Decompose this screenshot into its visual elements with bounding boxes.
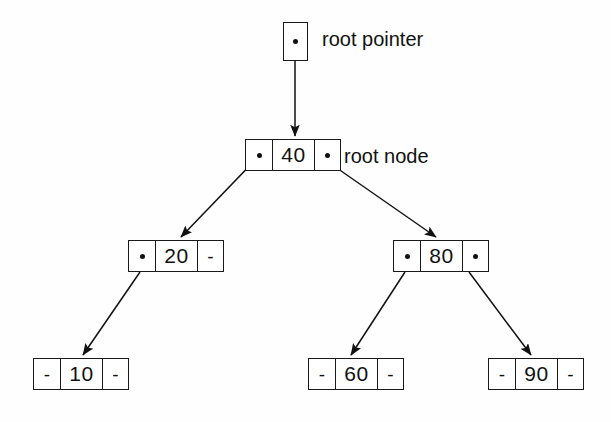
- node-20-left-pointer-cell: [129, 241, 155, 271]
- null-pointer-mark: -: [567, 365, 573, 384]
- pointer-dot-icon: [293, 39, 298, 44]
- node-10: - 10 -: [33, 358, 129, 390]
- null-pointer-mark: -: [499, 365, 505, 384]
- root-pointer-box: [283, 22, 308, 61]
- node-80: 80: [393, 240, 489, 272]
- node-20: 20 -: [128, 240, 224, 272]
- null-pointer-mark: -: [319, 365, 325, 384]
- node-40: 40: [245, 139, 341, 171]
- pointer-dot-icon: [405, 254, 410, 259]
- edge-node80-to-node60: [351, 272, 405, 355]
- node-90-value: 90: [515, 359, 557, 389]
- root-pointer-cell: [284, 23, 307, 60]
- node-10-left-pointer-cell: -: [34, 359, 60, 389]
- node-40-right-pointer-cell: [314, 140, 340, 170]
- pointer-dot-icon: [140, 254, 145, 259]
- edge-node80-to-node90: [469, 272, 531, 355]
- null-pointer-mark: -: [387, 365, 393, 384]
- pointer-dot-icon: [325, 153, 330, 158]
- node-90-left-pointer-cell: -: [489, 359, 515, 389]
- null-pointer-mark: -: [44, 365, 50, 384]
- node-60-right-pointer-cell: -: [377, 359, 403, 389]
- node-60-value: 60: [335, 359, 377, 389]
- pointer-dot-icon: [473, 254, 478, 259]
- node-60-left-pointer-cell: -: [309, 359, 335, 389]
- null-pointer-mark: -: [112, 365, 118, 384]
- node-10-right-pointer-cell: -: [102, 359, 128, 389]
- node-80-left-pointer-cell: [394, 241, 420, 271]
- pointer-dot-icon: [257, 153, 262, 158]
- null-pointer-mark: -: [207, 247, 213, 266]
- node-20-value: 20: [155, 241, 197, 271]
- node-20-right-pointer-cell: -: [197, 241, 223, 271]
- node-80-right-pointer-cell: [462, 241, 488, 271]
- node-90-right-pointer-cell: -: [557, 359, 583, 389]
- root-node-label: root node: [344, 145, 429, 168]
- node-90: - 90 -: [488, 358, 584, 390]
- root-pointer-label: root pointer: [322, 28, 423, 51]
- node-60: - 60 -: [308, 358, 404, 390]
- node-40-value: 40: [272, 140, 314, 170]
- node-40-left-pointer-cell: [246, 140, 272, 170]
- tree-diagram-canvas: root pointer 40 root node 20 - 80 -: [0, 0, 611, 422]
- node-80-value: 80: [420, 241, 462, 271]
- edge-node20-to-node10: [83, 272, 140, 355]
- node-10-value: 10: [60, 359, 102, 389]
